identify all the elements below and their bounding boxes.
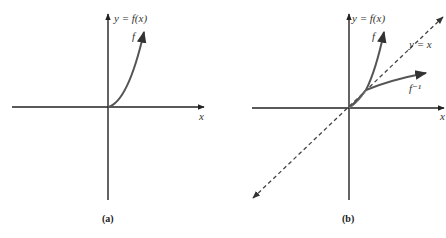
panel-a: y = f(x) f x (a): [12, 12, 204, 225]
caption-b: (b): [342, 213, 354, 225]
figure: y = f(x) f x (a) y = f(x) f y = x f⁻¹ x …: [0, 0, 446, 238]
curve-label-f: f: [132, 30, 137, 42]
x-axis-label: x: [439, 110, 445, 122]
curve-f: [349, 32, 384, 108]
panel-b: y = f(x) f y = x f⁻¹ x (b): [252, 12, 445, 225]
x-axis-label: x: [198, 110, 204, 122]
curve-label-f-inverse: f⁻¹: [409, 82, 421, 94]
line-label-y-equals-x: y = x: [408, 38, 432, 50]
y-axis-label: y = f(x): [351, 12, 385, 25]
y-axis-label: y = f(x): [113, 12, 147, 25]
curve-label-f: f: [372, 30, 377, 42]
curve-f: [108, 32, 144, 107]
caption-a: (a): [102, 213, 114, 225]
